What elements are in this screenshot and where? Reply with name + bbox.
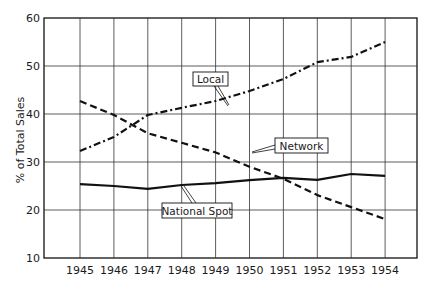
x-tick-label: 1951 — [269, 264, 297, 277]
y-tick-label: 20 — [26, 204, 40, 217]
label-national-spot: National Spot — [162, 186, 233, 218]
y-axis-ticks: 102030405060 — [26, 12, 40, 265]
series-national-spot — [80, 174, 385, 189]
x-tick-label: 1954 — [371, 264, 399, 277]
label-network-text: Network — [280, 140, 325, 152]
y-tick-label: 30 — [26, 156, 40, 169]
series-local — [80, 42, 385, 151]
x-axis-ticks: 1945194619471948194919501951195219531954 — [66, 264, 399, 277]
line-chart: 102030405060 194519461947194819491950195… — [0, 0, 433, 288]
label-national-spot-text: National Spot — [162, 205, 233, 217]
x-tick-label: 1952 — [303, 264, 331, 277]
y-tick-label: 60 — [26, 12, 40, 25]
x-tick-label: 1950 — [236, 264, 264, 277]
x-tick-label: 1945 — [66, 264, 94, 277]
x-tick-label: 1947 — [134, 264, 162, 277]
y-tick-label: 10 — [26, 252, 40, 265]
y-axis-label: % of Total Sales — [14, 96, 27, 183]
x-tick-label: 1948 — [168, 264, 196, 277]
label-network: Network — [252, 138, 328, 153]
grid-lines — [44, 18, 417, 258]
y-tick-label: 40 — [26, 108, 40, 121]
x-tick-label: 1949 — [202, 264, 230, 277]
x-tick-label: 1953 — [337, 264, 365, 277]
y-tick-label: 50 — [26, 60, 40, 73]
series-lines — [80, 42, 385, 219]
label-local-text: Local — [197, 73, 224, 85]
x-tick-label: 1946 — [100, 264, 128, 277]
series-network — [80, 101, 385, 219]
